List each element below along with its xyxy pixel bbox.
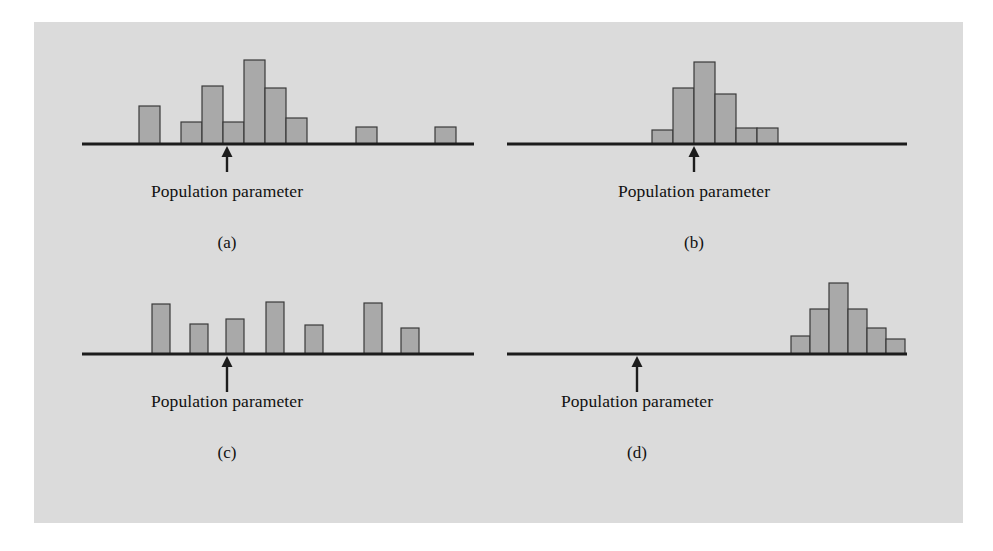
bar (223, 122, 244, 144)
bar (810, 309, 829, 354)
bar (286, 118, 307, 144)
panel-d-param-label: Population parameter (444, 391, 830, 412)
panel-a-caption: (a) (34, 233, 420, 253)
bar (152, 304, 170, 354)
bar (791, 336, 810, 354)
bar (190, 324, 208, 354)
bar (652, 130, 673, 144)
panel-b-caption: (b) (501, 233, 887, 253)
bar (356, 127, 377, 144)
population-parameter-arrow-head (222, 356, 233, 367)
bar (673, 88, 694, 144)
bar (226, 319, 244, 354)
panel-b-plot (499, 22, 963, 172)
panel-c-caption: (c) (34, 443, 420, 463)
bar (139, 106, 160, 144)
bar (244, 60, 265, 144)
population-parameter-arrow-head (632, 356, 643, 367)
bar (364, 303, 382, 354)
bar (736, 128, 757, 144)
panel-c-param-label: Population parameter (34, 391, 420, 412)
panel-d-caption: (d) (444, 443, 830, 463)
panel-a-chart (34, 22, 498, 172)
bar (435, 127, 456, 144)
panel-a-param-label: Population parameter (34, 181, 420, 202)
bar (757, 128, 778, 144)
bar (694, 62, 715, 144)
bar (401, 328, 419, 354)
panel-c: Population parameter (c) (34, 273, 498, 523)
figure-panel: Population parameter (a) Population para… (34, 22, 963, 523)
panel-d: Population parameter (d) (499, 273, 963, 523)
bar (266, 302, 284, 354)
bar (305, 325, 323, 354)
bar (886, 339, 905, 354)
bar (181, 122, 202, 144)
population-parameter-arrow-head (689, 146, 700, 157)
bar (715, 94, 736, 144)
bar (265, 88, 286, 144)
panel-a: Population parameter (a) (34, 22, 498, 272)
panel-b-chart (499, 22, 963, 172)
bar (829, 283, 848, 354)
bar (867, 328, 886, 354)
population-parameter-arrow-head (222, 146, 233, 157)
bar (202, 86, 223, 144)
bar (848, 309, 867, 354)
panel-a-plot (34, 22, 498, 172)
panel-b-param-label: Population parameter (501, 181, 887, 202)
panel-b: Population parameter (b) (499, 22, 963, 272)
